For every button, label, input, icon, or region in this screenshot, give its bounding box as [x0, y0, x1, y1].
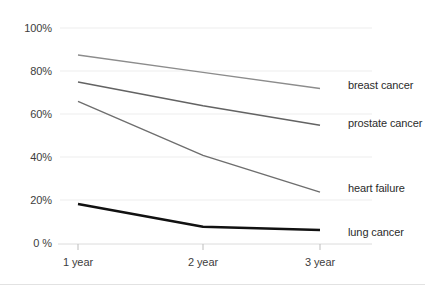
x-axis-ticks — [78, 244, 320, 250]
line-chart: 100% 80% 60% 40% 20% 0 % 1 year 2 year 3… — [0, 0, 425, 290]
y-tick-label-20: 20% — [8, 194, 52, 206]
y-tick-label-40: 40% — [8, 151, 52, 163]
series-label-lung-cancer: lung cancer — [348, 226, 404, 238]
x-tick-label-3-year: 3 year — [290, 256, 350, 268]
series-line-lung-cancer — [78, 204, 320, 230]
series-line-breast-cancer — [78, 55, 320, 89]
series-label-breast-cancer: breast cancer — [348, 79, 413, 91]
bottom-divider — [0, 284, 425, 285]
y-tick-label-0: 0 % — [8, 237, 52, 249]
series-line-prostate-cancer — [78, 82, 320, 125]
series-label-prostate-cancer: prostate cancer — [348, 117, 422, 129]
series-line-heart-failure — [78, 101, 320, 192]
y-tick-label-100: 100% — [8, 22, 52, 34]
y-tick-label-60: 60% — [8, 108, 52, 120]
chart-plot-area — [0, 0, 425, 290]
x-tick-label-1-year: 1 year — [48, 256, 108, 268]
series-label-heart-failure: heart failure — [348, 182, 405, 194]
y-tick-label-80: 80% — [8, 65, 52, 77]
x-tick-label-2-year: 2 year — [173, 256, 233, 268]
